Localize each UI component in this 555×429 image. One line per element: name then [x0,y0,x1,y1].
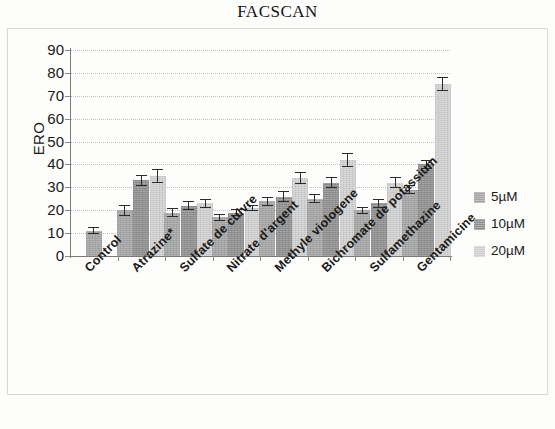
legend-item[interactable]: 20µM [474,244,525,258]
error-bar-cap-top [183,201,194,202]
error-bar [136,175,147,186]
error-bar-cap-top [278,191,289,192]
error-bar-cap-top [295,172,306,173]
legend-swatch-5um [474,192,485,203]
error-bar-cap-top [88,227,99,228]
x-tick-mark [450,256,451,261]
bar-group [70,50,118,256]
error-bar [342,153,353,167]
y-tick-label: 90 [30,42,64,57]
error-bar-cap-bottom [119,215,130,216]
y-tick-label: 40 [30,156,64,171]
bar [133,180,149,256]
legend-item[interactable]: 10µM [474,217,525,231]
error-bar-cap-top [119,205,130,206]
error-bar-cap-top [167,208,178,209]
error-bar [167,208,178,217]
error-bar-cap-top [214,214,225,215]
error-bar-cap-top [309,194,320,195]
y-tick-label: 30 [30,179,64,194]
legend-item-label: 20µM [491,244,525,258]
error-bar [119,205,130,216]
error-bar-cap-bottom [88,233,99,234]
error-bar [295,172,306,183]
y-tick-label: 0 [30,248,64,263]
error-bar [183,201,194,210]
error-bar [262,197,273,206]
error-bar [200,199,211,208]
error-bar-cap-top [136,175,147,176]
error-bar-cap-bottom [309,202,320,203]
error-bar-cap-top [357,207,368,208]
error-bar-cap-top [152,169,163,170]
error-bar-cap-bottom [326,187,337,188]
error-bar-cap-bottom [342,166,353,167]
bar-fill [133,180,149,256]
error-bar-stem [442,77,443,91]
error-bar-cap-bottom [152,182,163,183]
error-bar-cap-bottom [357,213,368,214]
y-tick-label: 10 [30,225,64,240]
error-bar [152,169,163,183]
error-bar-cap-bottom [437,90,448,91]
legend-item[interactable]: 5µM [474,190,525,204]
error-bar-cap-bottom [200,207,211,208]
error-bar-cap-bottom [167,216,178,217]
y-tick-label: 80 [30,65,64,80]
x-tick-mark [118,256,119,261]
y-tick-label: 20 [30,202,64,217]
error-bar [326,177,337,188]
legend-swatch-20um [474,246,485,257]
legend-item-label: 10µM [491,217,525,231]
error-bar-cap-bottom [136,185,147,186]
error-bar-cap-bottom [262,205,273,206]
x-tick-mark [308,256,309,261]
y-tick-label: 70 [30,88,64,103]
error-bar-cap-top [326,177,337,178]
legend-swatch-10um [474,219,485,230]
plot-area [70,50,450,256]
error-bar-stem [157,169,158,183]
x-tick-mark [165,256,166,261]
error-bar-cap-bottom [183,209,194,210]
x-tick-mark [355,256,356,261]
chart-plot-container: ERO 9080706050403020100 ControlAtrazine*… [0,0,555,429]
chart-legend: 5µM10µM20µM [474,190,525,271]
y-tick-label: 50 [30,134,64,149]
y-tick-label: 60 [30,111,64,126]
x-tick-mark [213,256,214,261]
legend-item-label: 5µM [491,190,518,204]
y-axis-line [70,48,71,258]
error-bar [437,77,448,91]
error-bar-cap-top [390,177,401,178]
error-bar-cap-top [437,77,448,78]
error-bar-cap-top [200,199,211,200]
error-bar [357,207,368,214]
x-tick-mark [403,256,404,261]
error-bar [309,194,320,203]
error-bar-cap-top [342,153,353,154]
bar [117,210,133,256]
bar-group [118,50,166,256]
bar-fill [117,210,133,256]
bar-group [165,50,213,256]
error-bar-cap-bottom [295,183,306,184]
error-bar-stem [347,153,348,167]
error-bar-cap-top [262,197,273,198]
x-tick-mark [260,256,261,261]
error-bar [88,227,99,234]
